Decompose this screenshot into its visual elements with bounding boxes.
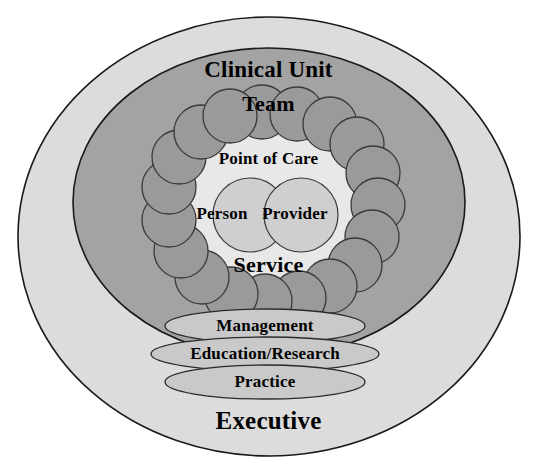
label-education-research: Education/Research [155, 345, 375, 362]
label-team: Team [0, 93, 537, 115]
label-point-of-care: Point of Care [0, 150, 537, 167]
label-person: Person [186, 205, 258, 222]
label-practice: Practice [167, 373, 363, 390]
label-management: Management [167, 317, 363, 334]
label-clinical-unit: Clinical Unit [0, 58, 537, 81]
label-provider: Provider [252, 205, 338, 222]
clinical-unit-diagram: Clinical Unit Team Point of Care Person … [0, 0, 537, 469]
label-service: Service [0, 254, 537, 276]
label-executive: Executive [0, 408, 537, 433]
